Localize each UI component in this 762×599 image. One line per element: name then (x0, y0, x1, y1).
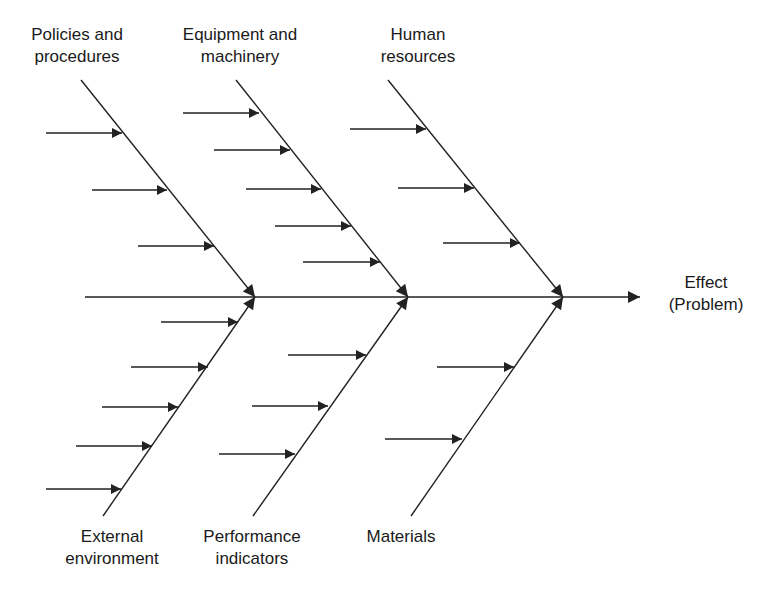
category-label-policies-and-procedures: Policies and procedures (31, 24, 123, 68)
effect-line: Effect (669, 272, 744, 294)
bone-materials (411, 297, 563, 516)
label-line: environment (65, 548, 159, 570)
fishbone-diagram (0, 0, 762, 599)
category-label-external-environment: External environment (65, 526, 159, 570)
label-line: Human (381, 24, 456, 46)
label-line: machinery (183, 46, 297, 68)
category-label-equipment-and-machinery: Equipment and machinery (183, 24, 297, 68)
label-line: resources (381, 46, 456, 68)
category-label-materials: Materials (367, 526, 436, 548)
label-line: indicators (203, 548, 300, 570)
category-label-human-resources: Human resources (381, 24, 456, 68)
causes-layer (46, 113, 520, 489)
label-line: Policies and (31, 24, 123, 46)
label-line: Equipment and (183, 24, 297, 46)
label-line: Performance (203, 526, 300, 548)
bones-layer (81, 80, 563, 516)
effect-label: Effect (Problem) (669, 272, 744, 316)
category-label-performance-indicators: Performance indicators (203, 526, 300, 570)
label-line: External (65, 526, 159, 548)
label-line: procedures (31, 46, 123, 68)
effect-line: (Problem) (669, 294, 744, 316)
label-line: Materials (367, 526, 436, 548)
